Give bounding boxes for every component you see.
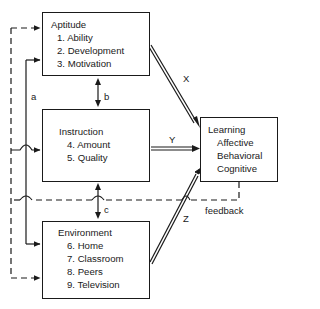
edge-label-z: Z [183,213,189,224]
aptitude-item: 3. Motivation [57,58,111,71]
learning-title: Learning [208,124,245,137]
instruction-item: 4. Amount [67,139,110,152]
environment-item: 7. Classroom [67,253,124,266]
environment-item: 8. Peers [67,266,103,279]
instruction-item: 5. Quality [67,152,108,165]
environment-title: Environment [58,227,112,240]
edge-label-y: Y [169,134,175,145]
edge-label-x: X [183,73,189,84]
aptitude-title: Aptitude [51,19,86,32]
learning-box: Learning Affective Behavioral Cognitive [200,117,278,182]
learning-item: Affective [217,137,254,150]
learning-item: Cognitive [217,163,257,176]
edge-label-a: a [31,91,36,102]
instruction-box: Instruction 4. Amount 5. Quality [42,109,150,182]
aptitude-box: Aptitude 1. Ability 2. Development 3. Mo… [42,12,150,76]
edge-label-c: c [104,204,109,215]
aptitude-item: 2. Development [57,45,124,58]
environment-item: 9. Television [67,279,120,292]
edge-label-feedback: feedback [205,205,244,216]
edge-x [149,45,200,128]
edge-z [150,168,201,264]
edge-label-b: b [104,91,109,102]
environment-item: 6. Home [67,240,103,253]
aptitude-item: 1. Ability [57,32,93,45]
environment-box: Environment 6. Home 7. Classroom 8. Peer… [42,221,150,299]
instruction-title: Instruction [59,126,103,139]
learning-item: Behavioral [217,150,262,163]
edge-y [151,145,200,152]
